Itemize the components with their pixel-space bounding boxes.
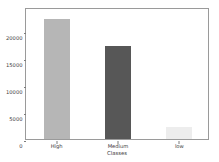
y-tick-mark [24,60,27,61]
plot-frame: 05000100001500020000HighMediumlow [25,8,209,140]
x-tick-label: High [51,143,63,149]
x-axis-label: Classes [25,150,209,156]
bar-high [44,19,70,139]
y-tick-mark [24,141,27,142]
y-tick-mark [24,87,27,88]
y-tick-label: 5000 [9,116,26,121]
y-tick-label: 20000 [6,35,26,40]
y-tick-mark [24,114,27,115]
x-tick-label: Medium [108,143,129,149]
y-tick-mark [24,33,27,34]
plot-area: 05000100001500020000HighMediumlow [26,9,208,139]
x-tick-label: low [175,143,184,149]
bar-medium [105,46,131,139]
y-tick-label: 15000 [6,62,26,67]
y-tick-label: 10000 [6,89,26,94]
bar-low [166,127,192,139]
bar-chart-figure: Number of instances 05000100001500020000… [0,0,219,162]
y-tick-label: 0 [19,143,26,148]
